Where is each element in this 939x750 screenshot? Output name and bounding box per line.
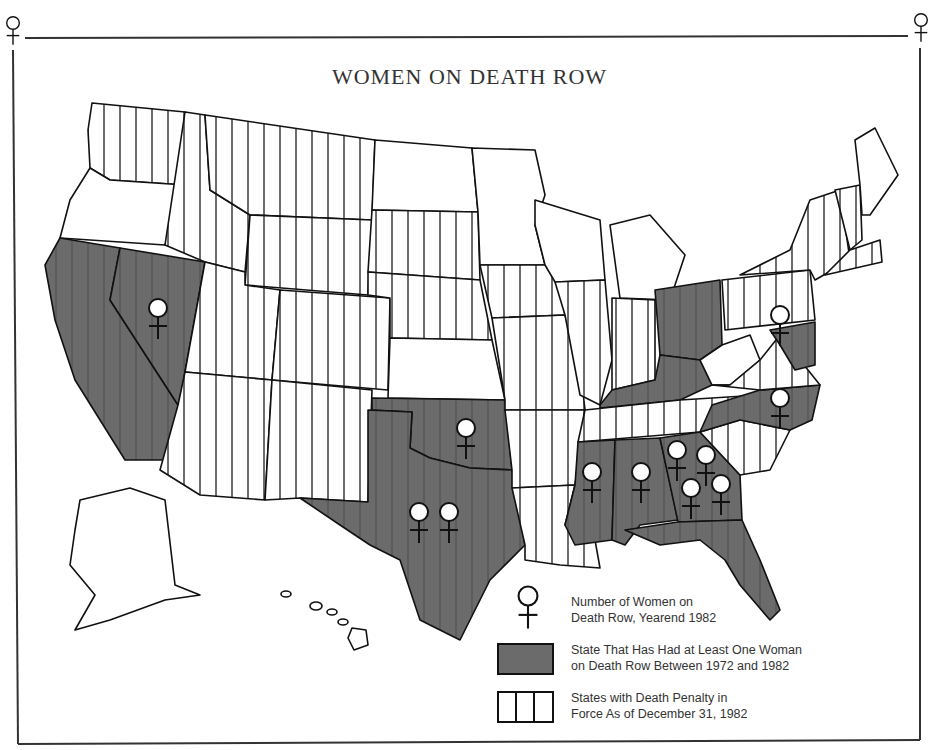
state-washington	[88, 103, 185, 185]
legend-hatched-box-icon	[498, 692, 553, 722]
state-pennsylvania	[722, 270, 815, 330]
legend-text-line: State That Has Had at Least One Woman	[571, 642, 802, 658]
state-colorado	[272, 290, 390, 390]
state-maine	[855, 128, 898, 215]
state-minnesota	[472, 148, 545, 265]
state-indiana	[612, 298, 655, 390]
legend-text-line: States with Death Penalty in	[571, 690, 747, 706]
state-ohio	[655, 280, 722, 360]
state-kansas	[388, 338, 505, 400]
map-title: WOMEN ON DEATH ROW	[0, 64, 939, 90]
legend-text-line: Force As of December 31, 1982	[571, 706, 747, 722]
legend-gray-box-icon	[498, 644, 553, 674]
legend-text-line: Number of Women on	[571, 594, 716, 610]
state-new-mexico	[265, 380, 372, 502]
corner-female-symbol-right-icon	[915, 14, 928, 42]
state-north-dakota	[372, 140, 478, 212]
legend-female-symbol-icon	[519, 587, 538, 629]
legend-item-women-count: Number of Women on Death Row, Yearend 19…	[571, 594, 716, 626]
legend-text-line: on Death Row Between 1972 and 1982	[571, 658, 802, 674]
us-map	[45, 103, 898, 650]
legend-symbols	[498, 587, 553, 722]
state-hawaii	[281, 591, 368, 650]
state-arkansas	[505, 410, 585, 488]
state-alaska	[70, 488, 200, 630]
state-south-dakota	[368, 210, 480, 280]
legend-item-had-woman: State That Has Had at Least One Woman on…	[571, 642, 802, 674]
map-figure	[0, 0, 939, 750]
corner-female-symbol-left-icon	[7, 17, 20, 45]
state-wyoming	[245, 215, 372, 295]
legend-item-death-penalty: States with Death Penalty in Force As of…	[571, 690, 747, 722]
legend-text-line: Death Row, Yearend 1982	[571, 610, 716, 626]
